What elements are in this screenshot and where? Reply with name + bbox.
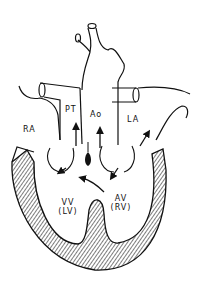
label-vv-line2: (LV) <box>56 207 80 216</box>
label-av-line1: AV <box>108 194 134 203</box>
heart-diagram <box>0 0 204 289</box>
pulmonary-trunk-outline <box>80 88 82 144</box>
label-ra: RA <box>23 125 36 134</box>
label-av: AV (RV) <box>108 194 134 212</box>
label-ao: Ao <box>90 110 102 119</box>
label-vv: VV (LV) <box>56 198 80 216</box>
label-pt: PT <box>65 105 77 114</box>
label-la: LA <box>127 115 139 124</box>
ventricle-wall <box>12 149 166 270</box>
label-av-line2: (RV) <box>108 203 134 212</box>
label-vv-line1: VV <box>56 198 80 207</box>
aorta-outline <box>78 28 124 90</box>
